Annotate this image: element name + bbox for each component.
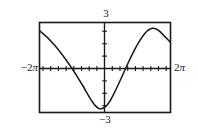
- plot-canvas: [0, 0, 198, 130]
- graph-figure: 3 −3 −2π 2π: [0, 0, 198, 130]
